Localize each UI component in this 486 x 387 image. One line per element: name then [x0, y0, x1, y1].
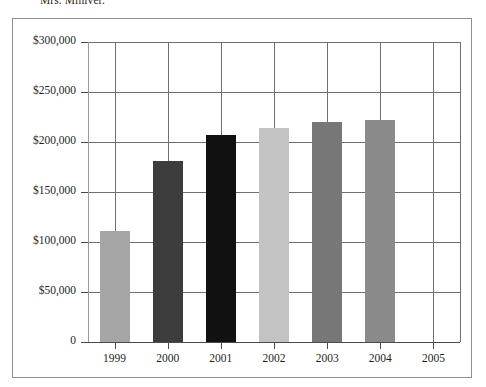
y-tick-label: $150,000: [4, 184, 76, 196]
y-tick-mark: [81, 242, 88, 243]
x-tick-mark: [115, 342, 116, 349]
bar-2000: [153, 161, 183, 342]
y-axis-line: [88, 42, 89, 342]
y-tick-mark: [81, 192, 88, 193]
x-tick-label-2005: 2005: [406, 352, 460, 364]
y-tick-mark: [81, 92, 88, 93]
bar-2004: [365, 120, 395, 342]
y-tick-label: 0: [4, 334, 76, 346]
y-tick-label: $200,000: [4, 134, 76, 146]
gridline-vertical: [433, 42, 434, 342]
bar-2002: [259, 128, 289, 342]
y-tick-label: $250,000: [4, 84, 76, 96]
bar-1999: [100, 231, 130, 342]
bar-2003: [312, 122, 342, 342]
y-tick-label: $300,000: [4, 34, 76, 46]
x-tick-label-2003: 2003: [300, 352, 354, 364]
y-tick-mark: [81, 42, 88, 43]
bar-2001: [206, 135, 236, 342]
y-tick-mark: [81, 292, 88, 293]
y-tick-mark: [81, 342, 88, 343]
x-tick-mark: [274, 342, 275, 349]
x-tick-label-1999: 1999: [88, 352, 142, 364]
x-tick-label-2002: 2002: [247, 352, 301, 364]
y-tick-label: $50,000: [4, 284, 76, 296]
x-tick-mark: [168, 342, 169, 349]
x-tick-label-2004: 2004: [353, 352, 407, 364]
x-tick-label-2001: 2001: [194, 352, 248, 364]
x-tick-mark: [380, 342, 381, 349]
x-tick-mark: [433, 342, 434, 349]
y-tick-mark: [81, 142, 88, 143]
plot-area: [88, 42, 460, 342]
gridline-vertical: [460, 42, 461, 342]
bar-chart: 0$50,000$100,000$150,000$200,000$250,000…: [0, 0, 486, 387]
x-tick-label-2000: 2000: [141, 352, 195, 364]
x-tick-mark: [327, 342, 328, 349]
x-tick-mark: [221, 342, 222, 349]
y-tick-label: $100,000: [4, 234, 76, 246]
